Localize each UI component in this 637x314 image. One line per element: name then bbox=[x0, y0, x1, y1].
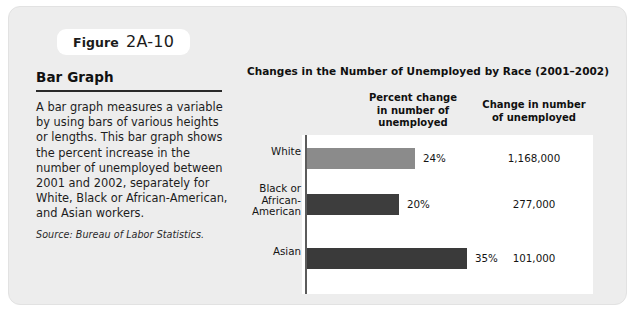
row-category-label-line: American bbox=[181, 206, 301, 218]
column-header-change-line1: Change in number bbox=[469, 99, 599, 112]
chart-row: White24%1,168,000 bbox=[243, 144, 613, 174]
figure-number: 2A-10 bbox=[126, 32, 174, 51]
explanation-source: Source: Bureau of Labor Statistics. bbox=[36, 229, 236, 240]
chart-row: Black orAfrican-American20%277,000 bbox=[243, 190, 613, 220]
bar-percent-value: 20% bbox=[407, 198, 430, 210]
bar-percent-value: 24% bbox=[423, 152, 446, 164]
chart-region: Changes in the Number of Unemployed by R… bbox=[243, 65, 613, 297]
column-header-percent-change: Percent change in number of unemployed bbox=[361, 92, 465, 130]
row-category-label-line: Black or bbox=[181, 183, 301, 195]
row-category-label: Black orAfrican-American bbox=[181, 183, 301, 218]
chart-title: Changes in the Number of Unemployed by R… bbox=[243, 65, 613, 77]
row-category-label: Asian bbox=[181, 246, 301, 258]
explanation-divider bbox=[36, 90, 222, 92]
figure-card: Figure 2A-10 Bar Graph A bar graph measu… bbox=[8, 6, 627, 305]
row-count-value: 101,000 bbox=[469, 252, 599, 264]
figure-number-tab: Figure 2A-10 bbox=[57, 29, 190, 55]
row-category-label: White bbox=[181, 146, 301, 158]
bar bbox=[307, 148, 415, 169]
bar bbox=[307, 248, 467, 269]
explanation-title: Bar Graph bbox=[36, 69, 236, 85]
row-category-label-line: Asian bbox=[181, 246, 301, 258]
row-count-value: 1,168,000 bbox=[469, 152, 599, 164]
column-header-percent-line3: unemployed bbox=[361, 117, 465, 130]
chart-row: Asian35%101,000 bbox=[243, 244, 613, 274]
row-category-label-line: White bbox=[181, 146, 301, 158]
column-header-change-in-number: Change in number of unemployed bbox=[469, 99, 599, 124]
figure-label-word: Figure bbox=[73, 35, 119, 50]
row-count-value: 277,000 bbox=[469, 198, 599, 210]
column-header-percent-line2: in number of bbox=[361, 105, 465, 118]
column-header-change-line2: of unemployed bbox=[469, 112, 599, 125]
column-header-percent-line1: Percent change bbox=[361, 92, 465, 105]
bar bbox=[307, 194, 399, 215]
